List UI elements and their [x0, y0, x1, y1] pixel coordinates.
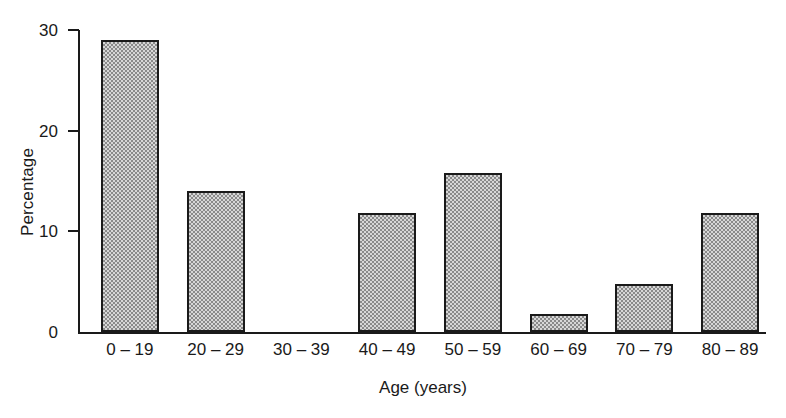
bar	[358, 213, 416, 332]
x-axis-title: Age (years)	[80, 378, 766, 398]
y-axis-tick-label: 20	[14, 122, 58, 139]
plot-area	[80, 30, 766, 332]
bar	[187, 191, 245, 332]
y-axis-tick-label: 0	[14, 324, 58, 341]
bar	[530, 314, 588, 332]
x-axis-tick-label: 80 – 89	[677, 340, 783, 360]
x-axis-line	[78, 332, 766, 334]
y-axis-ticks: 0102030	[0, 0, 80, 418]
bar	[444, 173, 502, 332]
bar-chart: Percentage 0102030 0 – 1920 – 2930 – 394…	[0, 0, 786, 418]
y-axis-tick-label: 10	[14, 223, 58, 240]
bar	[615, 284, 673, 332]
bar	[701, 213, 759, 332]
bar	[101, 40, 159, 332]
x-axis-ticks: 0 – 1920 – 2930 – 3940 – 4950 – 5960 – 6…	[80, 340, 766, 368]
y-axis-tick-label: 30	[14, 22, 58, 39]
